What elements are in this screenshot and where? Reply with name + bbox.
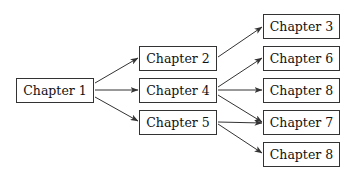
edge-ch1-to-ch5 [95, 97, 138, 121]
edge-ch4-to-ch7 [218, 95, 262, 122]
node-label: Chapter 1 [23, 83, 86, 98]
chapter-dependency-diagram: Chapter 1 Chapter 2 Chapter 4 Chapter 5 … [0, 0, 355, 174]
node-chapter-5: Chapter 5 [139, 110, 217, 135]
node-chapter-1: Chapter 1 [16, 78, 94, 103]
node-label: Chapter 6 [270, 51, 333, 66]
node-label: Chapter 7 [270, 115, 333, 130]
edge-ch4-to-ch6 [218, 58, 262, 87]
node-chapter-3: Chapter 3 [263, 14, 340, 39]
node-chapter-6: Chapter 6 [263, 46, 340, 71]
node-label: Chapter 2 [146, 51, 209, 66]
node-label: Chapter 5 [146, 115, 209, 130]
node-label: Chapter 8 [270, 83, 333, 98]
edge-ch5-to-ch7 [218, 122, 262, 123]
edge-ch1-to-ch2 [95, 58, 138, 83]
node-label: Chapter 3 [270, 19, 333, 34]
node-chapter-2: Chapter 2 [139, 46, 217, 71]
node-label: Chapter 4 [146, 83, 209, 98]
node-chapter-8-lower: Chapter 8 [263, 142, 340, 167]
node-chapter-7: Chapter 7 [263, 110, 340, 135]
edge-ch5-to-ch8b [218, 124, 262, 153]
node-label: Chapter 8 [270, 147, 333, 162]
edge-ch2-to-ch3 [218, 27, 262, 57]
node-chapter-4: Chapter 4 [139, 78, 217, 103]
node-chapter-8-upper: Chapter 8 [263, 78, 340, 103]
